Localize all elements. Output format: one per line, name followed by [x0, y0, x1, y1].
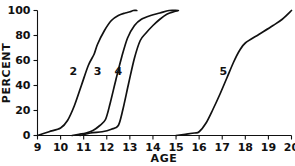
chart-container: 020406080100 91011121314151617181920 234…	[0, 0, 295, 166]
y-tick-label: 40	[15, 79, 31, 92]
y-tick-label: 100	[8, 4, 31, 17]
x-tick-label: 9	[34, 141, 42, 154]
x-tick-label: 19	[261, 141, 276, 154]
x-tick-group: 91011121314151617181920	[34, 136, 295, 154]
x-tick-label: 16	[191, 141, 207, 154]
series-label-4: 4	[114, 65, 122, 78]
x-tick-label: 17	[215, 141, 230, 154]
y-tick-label: 80	[15, 29, 31, 42]
x-tick-label: 18	[238, 141, 253, 154]
x-tick-label: 13	[122, 141, 137, 154]
x-tick-label: 20	[284, 141, 295, 154]
series-curve-5	[176, 11, 291, 136]
y-tick-label: 60	[15, 54, 31, 67]
x-tick-label: 12	[99, 141, 114, 154]
percent-vs-age-line-chart: 020406080100 91011121314151617181920 234…	[0, 0, 295, 166]
series-label-3: 3	[94, 65, 102, 78]
x-tick-label: 10	[53, 141, 69, 154]
series-label-5: 5	[220, 65, 228, 78]
series-label-group: 2345	[69, 65, 227, 78]
series-curve-3	[72, 10, 177, 135]
x-axis-title: AGE	[151, 152, 178, 165]
y-axis-title: PERCENT	[0, 43, 13, 104]
y-tick-label: 0	[23, 129, 31, 142]
x-tick-label: 11	[76, 141, 91, 154]
y-tick-label: 20	[15, 104, 31, 117]
series-label-2: 2	[69, 65, 77, 78]
